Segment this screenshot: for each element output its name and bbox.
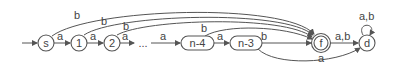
ellipsis-label: ... xyxy=(138,37,147,49)
automaton-diagram: a a a a a b a,b a,b a b b xyxy=(0,0,398,71)
edge-label: a xyxy=(217,30,224,42)
edge-label: a,b xyxy=(335,30,350,42)
edge-label: a,b xyxy=(359,10,374,22)
edge-1-f: b xyxy=(84,15,313,35)
state-label: n-4 xyxy=(190,37,206,49)
state-label: 2 xyxy=(109,37,115,49)
state-n-3: n-3 xyxy=(230,36,262,50)
edge-label: b xyxy=(74,9,80,21)
state-1: 1 xyxy=(71,35,87,51)
state-d: d xyxy=(359,35,375,51)
edge-n3-d: a xyxy=(258,48,360,64)
edge-label: a xyxy=(160,30,167,42)
edge-label: b xyxy=(101,15,107,27)
state-label: n-3 xyxy=(238,37,254,49)
state-label: s xyxy=(43,37,49,49)
edge-label: b xyxy=(123,20,129,32)
state-label: 1 xyxy=(76,37,82,49)
edge-d-d: a,b xyxy=(359,10,374,35)
edge-f-d: a,b xyxy=(331,30,358,43)
state-label: d xyxy=(364,37,370,49)
edge-n4-n3: a xyxy=(214,30,229,43)
state-2: 2 xyxy=(104,35,120,51)
state-n-4: n-4 xyxy=(181,36,214,50)
edge-ellipsis-n4: a xyxy=(151,30,180,43)
edge-2-f: b xyxy=(117,20,312,37)
state-s: s xyxy=(38,35,54,51)
edge-s-1: a xyxy=(54,30,70,43)
edge-label: a xyxy=(318,52,325,64)
state-f-accepting: f xyxy=(312,34,331,53)
edge-label: b xyxy=(201,22,207,34)
